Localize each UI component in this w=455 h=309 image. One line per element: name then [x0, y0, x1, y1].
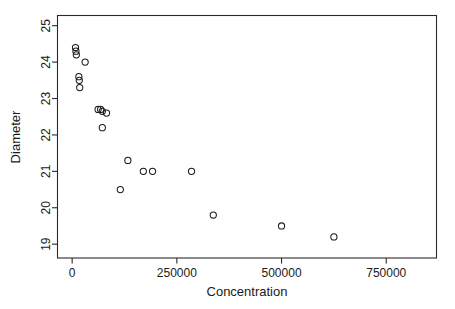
- x-tick-label: 250000: [157, 266, 197, 280]
- y-tick-label: 25: [40, 19, 54, 33]
- y-tick-label: 22: [40, 128, 54, 142]
- y-axis-title: Diameter: [8, 110, 23, 163]
- y-tick-label: 24: [40, 55, 54, 69]
- scatter-plot: 0250000500000750000 19202122232425 Conce…: [0, 0, 455, 309]
- y-tick-label: 23: [40, 92, 54, 106]
- x-tick-label: 500000: [262, 266, 302, 280]
- x-tick-label: 750000: [366, 266, 406, 280]
- y-tick-label: 21: [40, 164, 54, 178]
- x-tick-label: 0: [69, 266, 76, 280]
- chart-page: 0250000500000750000 19202122232425 Conce…: [0, 0, 455, 309]
- x-axis-title: Concentration: [207, 284, 288, 299]
- y-tick-label: 20: [40, 201, 54, 215]
- y-tick-label: 19: [40, 237, 54, 251]
